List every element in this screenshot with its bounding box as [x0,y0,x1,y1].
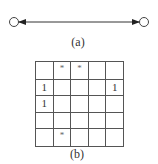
grid-cell [36,112,54,128]
grid-row: 11 [36,80,124,96]
grid-cell [106,62,124,80]
grid-cell [36,128,54,146]
grid-cell [88,128,106,146]
grid-cell [106,128,124,146]
grid-cell [71,112,89,128]
grid-cell [53,96,71,112]
grid-cell [36,62,54,80]
grid-cell: * [53,62,71,80]
grid-cell [88,96,106,112]
left-node-icon [10,18,19,27]
grid-cell [88,112,106,128]
grid-row [36,112,124,128]
grid-cell [71,128,89,146]
grid-cell: 1 [106,80,124,96]
grid-cell [71,80,89,96]
grid-cell: 1 [36,80,54,96]
grid-cell [106,112,124,128]
grid-cell: 1 [36,96,54,112]
grid-cell [88,80,106,96]
caption-a: (a) [58,35,98,50]
grid-cell: * [71,62,89,80]
grid-row: ** [36,62,124,80]
grid-row: * [36,128,124,146]
grid-cell [88,62,106,80]
grid-cell [53,112,71,128]
grid-row: 1 [36,96,124,112]
grid-cell [53,80,71,96]
grid-cell: * [53,128,71,146]
caption-b: (b) [57,147,97,162]
grid-cell [106,96,124,112]
grid-cell [71,96,89,112]
grid-b: **111* [35,61,124,147]
right-node-icon [140,18,149,27]
